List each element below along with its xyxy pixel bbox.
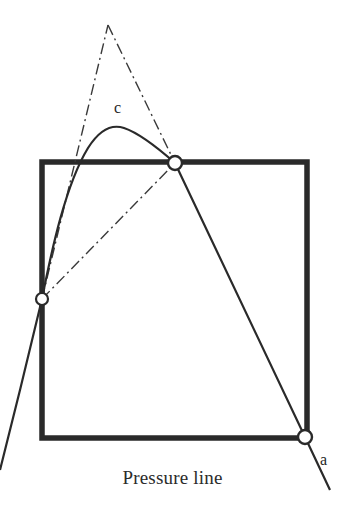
crown-label: c	[114, 100, 121, 116]
right-springing-node	[298, 430, 312, 444]
figure-background	[0, 0, 345, 529]
crown-node	[168, 156, 182, 170]
abutment-label: a	[320, 452, 327, 468]
pressure-line-diagram	[0, 0, 345, 529]
figure-caption: Pressure line	[0, 468, 345, 487]
left-springing-node	[36, 293, 48, 305]
pressure-line-figure: c a Pressure line	[0, 0, 345, 529]
